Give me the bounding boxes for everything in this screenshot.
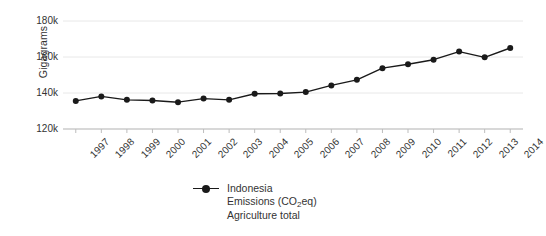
data-point [149,98,155,104]
data-point [73,98,79,104]
legend-label-line3: Agriculture total [227,209,317,222]
legend-marker-icon [193,183,219,195]
data-point [98,93,104,99]
data-point [379,65,385,71]
legend-label-line1: Indonesia [227,182,317,195]
data-point [252,91,258,97]
gridlines [63,21,523,129]
legend-label-line2-sub: 2 [297,200,301,209]
data-point [482,54,488,60]
chart-legend: Indonesia Emissions (CO2eq) Agriculture … [193,182,317,222]
data-point [201,96,207,102]
legend-label-line2: Emissions (CO2eq) [227,195,317,209]
series-line-indonesia [76,48,510,102]
data-point [456,49,462,55]
data-point [277,91,283,97]
data-point [431,57,437,63]
series-markers-indonesia [73,45,513,105]
data-point [226,97,232,103]
data-point [175,99,181,105]
legend-label-group: Indonesia Emissions (CO2eq) Agriculture … [227,182,317,222]
data-point [405,61,411,67]
legend-label-line2-post: eq) [301,195,316,207]
data-point [354,77,360,83]
x-axis [63,129,523,133]
data-point [328,82,334,88]
data-point [507,45,513,51]
legend-label-line2-pre: Emissions (CO [227,195,297,207]
data-point [303,89,309,95]
data-point [124,97,130,103]
